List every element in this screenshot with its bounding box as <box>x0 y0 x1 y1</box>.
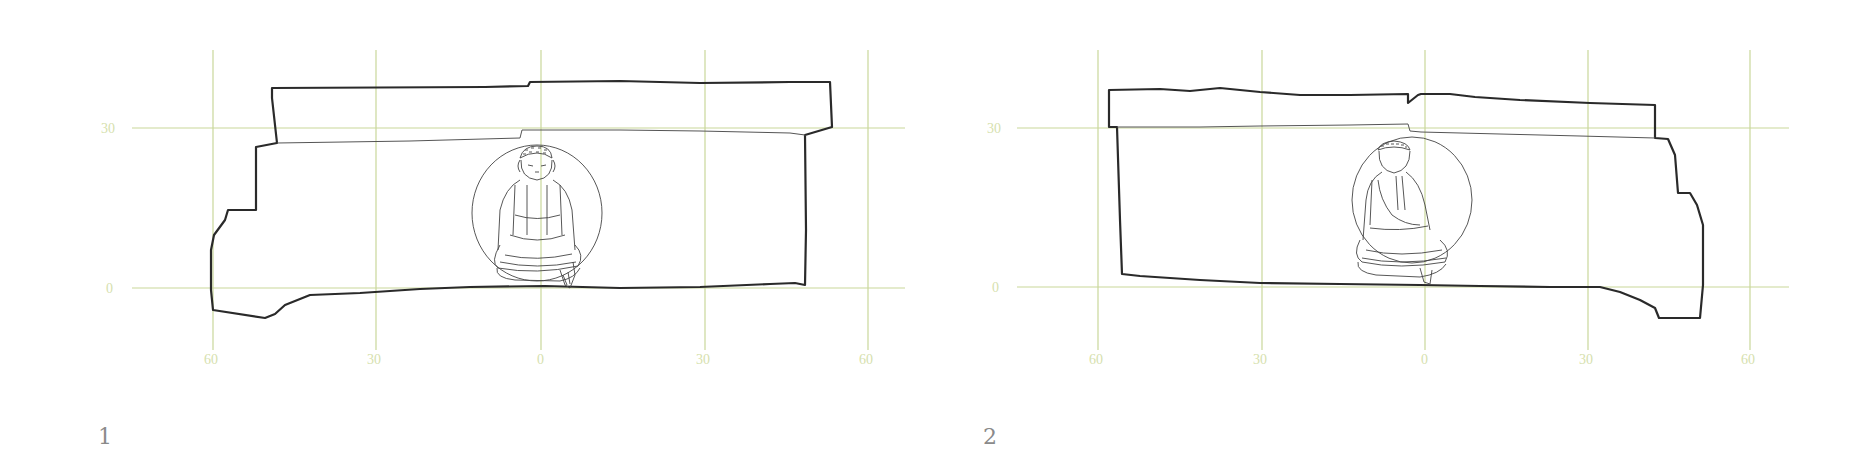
x-tick-60-right: 60 <box>859 352 873 367</box>
y-tick-30: 30 <box>101 121 115 136</box>
x-tick-30-left: 30 <box>1253 352 1267 367</box>
drawing-canvas: 30 0 60 30 0 30 60 <box>0 0 1869 476</box>
x-tick-60-left: 60 <box>1089 352 1103 367</box>
y-tick-0: 0 <box>992 280 999 295</box>
x-tick-30-left: 30 <box>367 352 381 367</box>
x-tick-60-left: 60 <box>204 352 218 367</box>
x-tick-0: 0 <box>1421 352 1428 367</box>
figure-2-stone-outline <box>1109 88 1703 318</box>
x-tick-30-right: 30 <box>696 352 710 367</box>
x-tick-60-right: 60 <box>1741 352 1755 367</box>
figure-2-tick-labels: 30 0 60 30 0 30 60 <box>987 121 1755 367</box>
figure-1-buddha-relief <box>472 145 602 288</box>
figure-2: 30 0 60 30 0 30 60 <box>987 50 1789 367</box>
y-tick-0: 0 <box>106 281 113 296</box>
figure-1-stone-outline <box>211 81 832 318</box>
figure-2-buddha-relief <box>1352 137 1472 284</box>
figure-number-2: 2 <box>983 424 997 449</box>
figure-1: 30 0 60 30 0 30 60 <box>101 50 905 367</box>
x-tick-0: 0 <box>537 352 544 367</box>
figure-1-grid <box>132 50 905 350</box>
figure-number-1: 1 <box>98 424 112 449</box>
figure-1-tick-labels: 30 0 60 30 0 30 60 <box>101 121 873 367</box>
x-tick-30-right: 30 <box>1579 352 1593 367</box>
y-tick-30: 30 <box>987 121 1001 136</box>
